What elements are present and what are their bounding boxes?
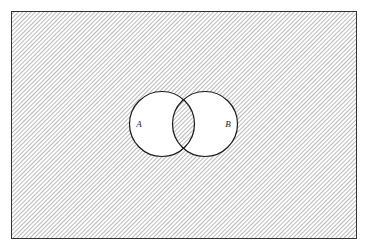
venn-svg-canvas: A B [0, 0, 368, 252]
venn-diagram-figure: A B [0, 0, 368, 252]
set-b-label: B [225, 119, 231, 129]
set-a-label: A [135, 119, 142, 129]
complement-shaded-region [11, 11, 357, 239]
